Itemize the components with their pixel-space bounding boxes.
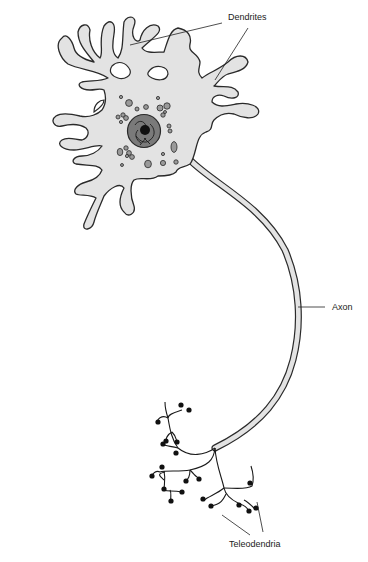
teleodendria-label: Teleodendria bbox=[229, 539, 281, 549]
teleodendria-leader-2 bbox=[257, 502, 263, 532]
teleodendria-leader-1 bbox=[222, 515, 250, 535]
nucleolus bbox=[140, 125, 150, 135]
neuron-illustration bbox=[0, 0, 368, 562]
terminal-bulbs bbox=[149, 402, 258, 513]
neuron-diagram: Dendrites Axon Teleodendria bbox=[0, 0, 368, 562]
teleodendria bbox=[152, 402, 255, 512]
dendrites-label: Dendrites bbox=[228, 12, 267, 22]
axon-label: Axon bbox=[332, 302, 353, 312]
axon bbox=[190, 160, 298, 448]
nucleus bbox=[128, 115, 161, 148]
